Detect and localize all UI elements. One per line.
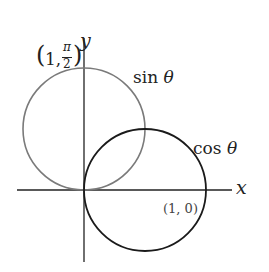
cos-theta-label: cos θ bbox=[193, 138, 237, 158]
polar-circles-diagram: y x ( 1, π 2 ) sin θ cos θ (1, 0) bbox=[0, 0, 269, 272]
paren-open: ( bbox=[36, 41, 45, 69]
sin-theta-label: sin θ bbox=[133, 67, 174, 87]
pi-numerator: π bbox=[63, 40, 71, 54]
denominator: 2 bbox=[63, 57, 71, 71]
cos-text: cos bbox=[193, 138, 227, 158]
paren-close: ) bbox=[73, 41, 82, 69]
coord-one: 1, bbox=[45, 49, 61, 69]
theta-symbol: θ bbox=[227, 138, 237, 158]
x-axis-label: x bbox=[236, 176, 247, 198]
sin-text: sin bbox=[133, 67, 164, 87]
point-label-1-0: (1, 0) bbox=[163, 201, 198, 216]
theta-symbol: θ bbox=[164, 67, 174, 87]
